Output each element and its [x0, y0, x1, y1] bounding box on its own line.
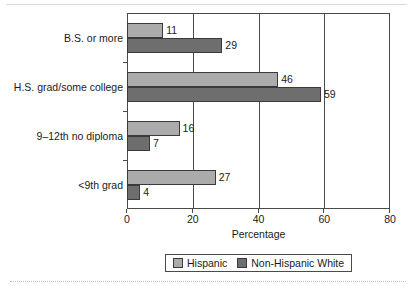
- y-axis-tick-0: [123, 62, 127, 63]
- y-axis-label-3: <9th grad: [78, 180, 123, 191]
- bar-1-0: [127, 72, 278, 87]
- y-axis-label-2: 9–12th no diploma: [37, 131, 123, 142]
- bar-value-label-3-1: 4: [143, 187, 149, 198]
- legend-swatch-icon-0: [173, 258, 183, 268]
- gridline-60: [324, 14, 325, 208]
- bar-2-1: [127, 136, 150, 151]
- bar-value-label-3-0: 27: [219, 172, 231, 183]
- bar-value-label-2-1: 7: [153, 138, 159, 149]
- y-axis-label-1: H.S. grad/some college: [14, 82, 123, 93]
- legend-label-0: Hispanic: [187, 258, 227, 269]
- x-axis-tick-label-60: 60: [304, 214, 344, 225]
- x-axis-tick-label-80: 80: [370, 214, 410, 225]
- bar-value-label-1-0: 46: [281, 74, 293, 85]
- bar-2-0: [127, 121, 180, 136]
- bar-0-0: [127, 23, 163, 38]
- legend-item-0: Hispanic: [173, 258, 227, 269]
- bar-1-1: [127, 87, 321, 102]
- x-axis-tick-label-40: 40: [239, 214, 279, 225]
- bar-3-1: [127, 185, 140, 200]
- x-axis-title: Percentage: [127, 228, 390, 240]
- bottom-dotted-divider: [10, 281, 406, 282]
- bar-value-label-1-1: 59: [324, 89, 336, 100]
- legend-swatch-icon-1: [237, 258, 247, 268]
- legend-label-1: Non-Hispanic White: [251, 258, 344, 269]
- gridline-40: [259, 14, 260, 208]
- y-axis-category-labels: B.S. or moreH.S. grad/some college9–12th…: [0, 13, 123, 209]
- figure-container: B.S. or moreH.S. grad/some college9–12th…: [0, 0, 413, 291]
- x-axis-tick-label-0: 0: [107, 214, 147, 225]
- legend-item-1: Non-Hispanic White: [237, 258, 344, 269]
- chart-legend: HispanicNon-Hispanic White: [165, 254, 352, 272]
- bar-value-label-0-0: 11: [166, 25, 177, 36]
- y-axis-tick-1: [123, 111, 127, 112]
- bar-3-0: [127, 170, 216, 185]
- bar-value-label-0-1: 29: [225, 40, 237, 51]
- x-axis-tick-label-20: 20: [173, 214, 213, 225]
- bar-value-label-2-0: 16: [183, 123, 195, 134]
- bar-0-1: [127, 38, 222, 53]
- y-axis-tick-2: [123, 160, 127, 161]
- y-axis-label-0: B.S. or more: [64, 33, 123, 44]
- top-divider-rule: [6, 4, 407, 5]
